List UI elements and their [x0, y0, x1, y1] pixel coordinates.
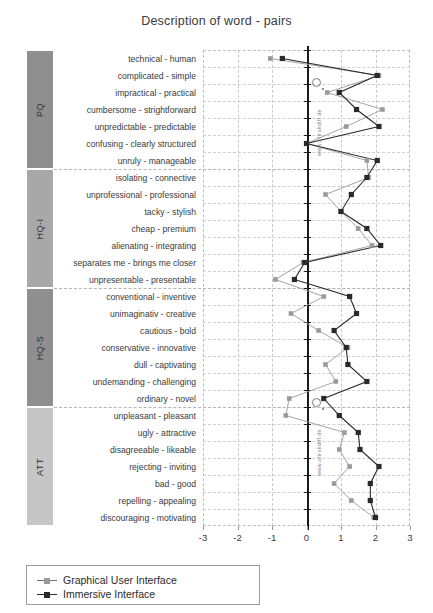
- word-pair-label: unpleasant - pleasant: [60, 411, 196, 421]
- legend-label-gui: Graphical User Interface: [63, 574, 177, 586]
- data-point-marker: [332, 481, 337, 486]
- word-pair-label: separates me - brings me closer: [60, 258, 196, 268]
- word-pair-label-column: technical - humancomplicated - simpleimp…: [58, 0, 196, 613]
- data-point-marker: [364, 226, 369, 231]
- data-point-marker: [380, 107, 385, 112]
- data-point-marker: [337, 413, 342, 418]
- category-band-label: HQ-S: [35, 335, 45, 360]
- x-axis-tick-mark: [341, 526, 342, 530]
- word-pair-label: impractical - practical: [60, 88, 196, 98]
- word-pair-label: complicated - simple: [60, 71, 196, 81]
- word-pair-label: cumbersome - strightforward: [60, 105, 196, 115]
- x-axis-tick-mark: [238, 526, 239, 530]
- data-point-marker: [364, 175, 369, 180]
- word-pair-label: confusing - clearly structured: [60, 139, 196, 149]
- data-point-marker: [287, 396, 292, 401]
- legend-item-gui: Graphical User Interface: [37, 574, 177, 586]
- word-pair-label: technical - human: [60, 54, 196, 64]
- data-point-marker: [349, 498, 354, 503]
- word-pair-label: repelling - appealing: [60, 496, 196, 506]
- category-band-label: HQ-I: [35, 218, 45, 239]
- watermark-dot-icon-2: [322, 408, 324, 410]
- x-axis: -3-2-10123: [203, 526, 410, 552]
- data-point-marker: [357, 447, 362, 452]
- word-pair-label: ugly - attractive: [60, 428, 196, 438]
- category-band-label: ATT: [35, 458, 45, 476]
- word-pair-label: undemanding - challenging: [60, 377, 196, 387]
- series-line: [270, 59, 382, 518]
- data-point-marker: [373, 515, 378, 520]
- x-axis-tick-label: -1: [268, 532, 276, 543]
- data-point-marker: [354, 311, 359, 316]
- x-axis-tick-mark: [307, 526, 308, 530]
- x-axis-tick-label: -3: [199, 532, 207, 543]
- data-point-marker: [268, 56, 273, 61]
- category-band-pq: PQ: [26, 50, 54, 169]
- series-layer: [203, 50, 410, 526]
- data-point-marker: [273, 277, 278, 282]
- word-pair-label: unruly - manageable: [60, 156, 196, 166]
- data-point-marker: [334, 379, 339, 384]
- word-pair-label: dull - captivating: [60, 360, 196, 370]
- word-pair-label: ordinary - novel: [60, 394, 196, 404]
- data-point-marker: [349, 192, 354, 197]
- data-point-marker: [354, 107, 359, 112]
- data-point-marker: [316, 328, 321, 333]
- watermark-text-lower: www.attrakdiff.de: [316, 429, 322, 476]
- data-point-marker: [321, 294, 326, 299]
- x-axis-tick-mark: [410, 526, 411, 530]
- word-pair-label: tacky - stylish: [60, 207, 196, 217]
- watermark-text-upper: www.attrakdiff.de: [316, 109, 322, 156]
- x-axis-tick-label: 3: [407, 532, 412, 543]
- data-point-marker: [344, 345, 349, 350]
- data-point-marker: [337, 90, 342, 95]
- x-axis-tick-label: 0: [304, 532, 309, 543]
- x-axis-tick-mark: [376, 526, 377, 530]
- data-point-marker: [347, 464, 352, 469]
- x-axis-tick-mark: [203, 526, 204, 530]
- data-point-marker: [378, 243, 383, 248]
- watermark-ring-icon: [312, 78, 321, 87]
- data-point-marker: [368, 481, 373, 486]
- x-axis-tick-label: 2: [373, 532, 378, 543]
- word-pair-label: unprofessional - professional: [60, 190, 196, 200]
- chart-page: Description of word - pairs PQHQ-IHQ-SAT…: [0, 0, 433, 613]
- data-point-marker: [364, 379, 369, 384]
- word-pair-label: cautious - bold: [60, 326, 196, 336]
- category-band-att: ATT: [26, 407, 54, 526]
- data-point-marker: [323, 362, 328, 367]
- data-point-marker: [342, 430, 347, 435]
- data-point-marker: [280, 56, 285, 61]
- category-band-hq-i: HQ-I: [26, 169, 54, 288]
- plot-area: www.attrakdiff.de www.attrakdiff.de: [203, 50, 410, 526]
- chart-legend: Graphical User Interface Immersive Inter…: [26, 565, 260, 605]
- data-point-marker: [323, 192, 328, 197]
- word-pair-label: conventional - inventive: [60, 292, 196, 302]
- x-axis-tick-mark: [272, 526, 273, 530]
- legend-label-immersive: Immersive Interface: [63, 588, 155, 600]
- word-pair-label: unpredictable - predictable: [60, 122, 196, 132]
- data-point-marker: [345, 362, 350, 367]
- data-point-marker: [356, 226, 361, 231]
- data-point-marker: [292, 277, 297, 282]
- word-pair-label: alienating - integrating: [60, 241, 196, 251]
- x-axis-tick-label: 1: [338, 532, 343, 543]
- series-line: [282, 59, 380, 518]
- word-pair-label: rejecting - inviting: [60, 462, 196, 472]
- data-point-marker: [347, 294, 352, 299]
- category-band-label: PQ: [35, 102, 45, 116]
- legend-item-immersive: Immersive Interface: [37, 588, 155, 600]
- data-point-marker: [337, 447, 342, 452]
- data-point-marker: [370, 243, 375, 248]
- word-pair-label: unimaginativ - creative: [60, 309, 196, 319]
- data-point-marker: [375, 158, 380, 163]
- legend-marker-gui: [37, 580, 57, 581]
- category-band-hq-s: HQ-S: [26, 288, 54, 407]
- watermark-dot-icon: [322, 88, 324, 90]
- data-point-marker: [325, 90, 330, 95]
- data-point-marker: [321, 396, 326, 401]
- word-pair-label: discouraging - motivating: [60, 513, 196, 523]
- watermark-ring-icon-2: [312, 398, 321, 407]
- data-point-marker: [375, 73, 380, 78]
- data-point-marker: [284, 413, 289, 418]
